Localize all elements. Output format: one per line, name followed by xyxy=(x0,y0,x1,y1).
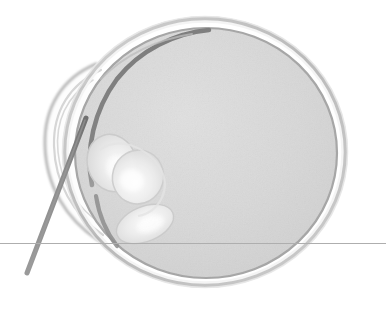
eye-cross-section-scene xyxy=(0,0,386,311)
render-stage: Eye Globe Cross-Section Render Vitreous … xyxy=(0,0,386,311)
